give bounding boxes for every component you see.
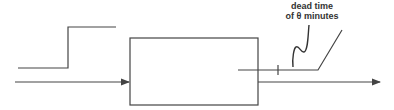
annotation-line-1: dead time (274, 1, 350, 11)
ramp-response-signal (238, 30, 342, 70)
annotation-leader-line (293, 25, 309, 67)
process-block (130, 38, 258, 105)
step-input-signal (18, 27, 116, 68)
annotation-line-2: of θ minutes (274, 11, 350, 21)
dead-time-annotation: dead time of θ minutes (274, 1, 350, 21)
